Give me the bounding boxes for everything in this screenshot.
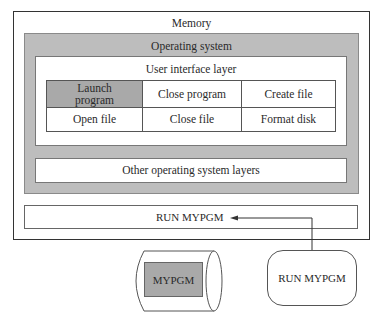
disk-program-box: MYPGM (144, 262, 203, 297)
user-command-box: RUN MYPGM (267, 250, 357, 306)
